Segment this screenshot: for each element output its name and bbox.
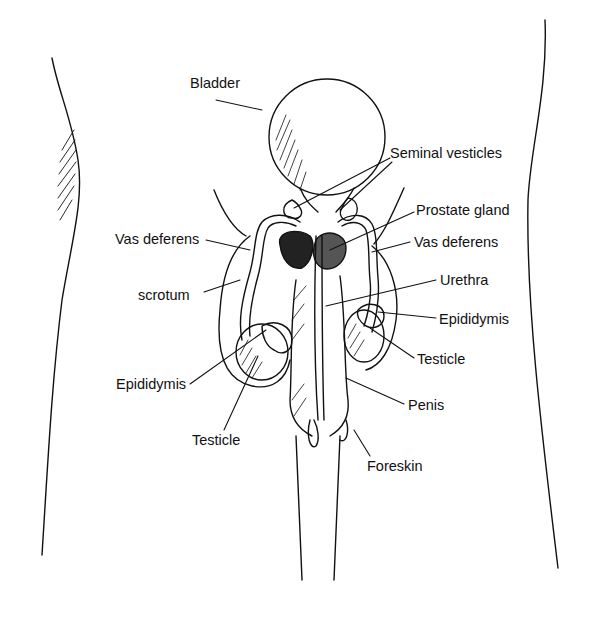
body-outline-right [528, 20, 558, 568]
epididymis-right-shape [357, 304, 384, 327]
foreskin-shape [308, 420, 347, 447]
label-vas-deferens-right: Vas deferens [414, 235, 498, 250]
prostate-right [314, 233, 346, 269]
label-vas-deferens-left: Vas deferens [115, 232, 199, 247]
penis-shaft [290, 276, 348, 436]
body-hatching-left [58, 130, 76, 220]
label-epididymis-left: Epididymis [116, 377, 186, 392]
bladder-shape [269, 79, 385, 195]
label-urethra: Urethra [440, 273, 488, 288]
bladder-hatching [276, 115, 306, 190]
label-testicle-right: Testicle [417, 352, 465, 367]
label-prostate-gland: Prostate gland [416, 203, 510, 218]
label-penis: Penis [408, 398, 444, 413]
label-bladder: Bladder [190, 76, 240, 91]
label-seminal-vesicles: Seminal vesticles [390, 146, 502, 161]
diagram-canvas: Bladder Seminal vesticles Prostate gland… [0, 0, 595, 622]
testicle-right-shape [344, 310, 384, 362]
body-outline-left [42, 58, 80, 555]
label-testicle-left: Testicle [192, 433, 240, 448]
label-scrotum: scrotum [138, 288, 190, 303]
label-foreskin: Foreskin [367, 459, 423, 474]
prostate-left [280, 231, 313, 268]
label-epididymis-right: Epididymis [439, 312, 509, 327]
